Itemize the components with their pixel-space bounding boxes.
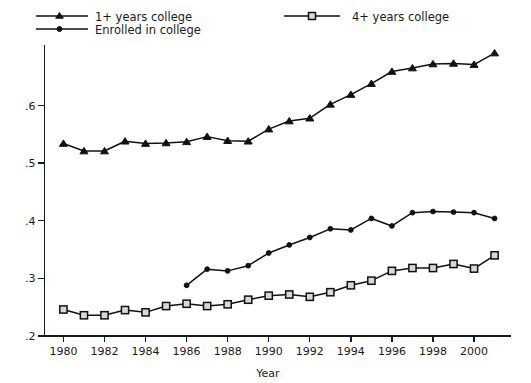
data-point bbox=[348, 228, 353, 233]
legend: 1+ years college Enrolled in college 4+ … bbox=[36, 10, 449, 37]
x-tick-label: 1992 bbox=[296, 345, 324, 358]
data-point bbox=[492, 216, 497, 221]
data-point bbox=[60, 306, 67, 313]
data-point bbox=[205, 267, 210, 272]
x-tick-label: 1998 bbox=[419, 345, 447, 358]
data-point bbox=[327, 289, 334, 296]
y-tick-label: .3 bbox=[25, 272, 36, 285]
data-point bbox=[246, 263, 251, 268]
data-point bbox=[388, 267, 395, 274]
data-point bbox=[491, 252, 498, 259]
data-point bbox=[162, 302, 169, 309]
legend-label-enrolled: Enrolled in college bbox=[95, 23, 201, 37]
data-point bbox=[491, 49, 499, 55]
x-tick-label: 2000 bbox=[460, 345, 488, 358]
plot-area bbox=[59, 49, 498, 318]
x-tick-label: 1982 bbox=[90, 345, 118, 358]
data-point bbox=[429, 264, 436, 271]
y-tick-label: .6 bbox=[25, 100, 36, 113]
series-square bbox=[60, 252, 498, 319]
y-tick-label: .4 bbox=[25, 215, 36, 228]
x-tick-label: 1984 bbox=[132, 345, 160, 358]
series-dot bbox=[184, 209, 497, 288]
data-point bbox=[470, 265, 477, 272]
x-tick-label: 1996 bbox=[378, 345, 406, 358]
x-tick-label: 1994 bbox=[337, 345, 365, 358]
data-point bbox=[409, 264, 416, 271]
data-point bbox=[410, 210, 415, 215]
data-point bbox=[451, 210, 456, 215]
data-point bbox=[287, 243, 292, 248]
data-point bbox=[59, 140, 67, 146]
data-point bbox=[224, 301, 231, 308]
x-tick-label: 1988 bbox=[214, 345, 242, 358]
data-point bbox=[266, 251, 271, 256]
data-point bbox=[306, 293, 313, 300]
axes: .2.3.4.5.6198019821984198619881990199219… bbox=[25, 45, 511, 358]
legend-label-1plus: 1+ years college bbox=[95, 10, 192, 24]
data-point bbox=[450, 260, 457, 267]
data-point bbox=[286, 291, 293, 298]
x-tick-label: 1990 bbox=[255, 345, 283, 358]
data-point bbox=[431, 209, 436, 214]
data-point bbox=[203, 133, 211, 139]
data-point bbox=[204, 302, 211, 309]
data-point bbox=[368, 277, 375, 284]
data-point bbox=[390, 224, 395, 229]
data-point bbox=[183, 300, 190, 307]
data-point bbox=[328, 226, 333, 231]
legend-square-icon bbox=[309, 13, 316, 20]
y-tick-label: .2 bbox=[25, 330, 36, 343]
line-chart-figure: 1+ years college Enrolled in college 4+ … bbox=[0, 0, 531, 383]
data-point bbox=[307, 235, 312, 240]
data-point bbox=[369, 216, 374, 221]
data-point bbox=[245, 296, 252, 303]
data-point bbox=[101, 312, 108, 319]
x-tick-label: 1986 bbox=[173, 345, 201, 358]
legend-label-4plus: 4+ years college bbox=[352, 10, 449, 24]
data-point bbox=[142, 309, 149, 316]
data-point bbox=[347, 282, 354, 289]
series-triangle bbox=[59, 49, 498, 153]
chart-container: 1+ years college Enrolled in college 4+ … bbox=[0, 0, 531, 383]
data-point bbox=[184, 283, 189, 288]
data-point bbox=[121, 306, 128, 313]
data-point bbox=[472, 210, 477, 215]
x-tick-label: 1980 bbox=[49, 345, 77, 358]
data-point bbox=[225, 268, 230, 273]
x-axis-title: Year bbox=[255, 367, 280, 380]
data-point bbox=[367, 80, 375, 86]
data-point bbox=[265, 292, 272, 299]
data-point bbox=[347, 91, 355, 97]
y-tick-label: .5 bbox=[25, 157, 36, 170]
data-point bbox=[326, 101, 334, 107]
legend-dot-icon bbox=[57, 27, 62, 32]
data-point bbox=[80, 312, 87, 319]
